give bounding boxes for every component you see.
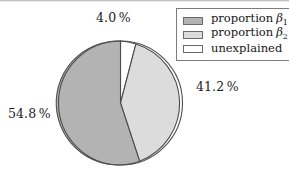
slice-label-unexplained-value: 4.0 [96, 10, 116, 25]
slice-label-unexplained-unit: % [119, 10, 131, 25]
chart-legend: proportionβ1 proportionβ2 unexplained [176, 8, 289, 61]
slice-label-beta1-value: 54.8 [8, 106, 36, 121]
legend-label-beta2-symbol: β [276, 25, 283, 39]
legend-label-beta1-text: proportion [211, 11, 273, 25]
legend-swatch-beta2 [183, 31, 203, 39]
slice-label-beta1-unit: % [39, 106, 51, 121]
pie-chart-figure: 4.0% 41.2% 54.8% proportionβ1 proportion… [0, 0, 289, 171]
legend-label-beta1-symbol: β [276, 11, 283, 25]
legend-item-unexplained[interactable]: unexplained [183, 42, 289, 55]
legend-item-beta2[interactable]: proportionβ2 [183, 28, 289, 41]
legend-label-beta2-text: proportion [211, 25, 273, 39]
slice-label-beta2: 41.2% [196, 79, 239, 94]
legend-swatch-unexplained [183, 45, 203, 53]
slice-label-beta1: 54.8% [8, 106, 51, 121]
legend-label-unexplained: unexplained [211, 42, 282, 55]
slice-label-beta2-value: 41.2 [196, 79, 224, 94]
slice-label-beta2-unit: % [227, 79, 239, 94]
slice-label-unexplained: 4.0% [96, 10, 131, 25]
legend-label-beta2-subscript: 2 [283, 32, 288, 41]
legend-swatch-beta1 [183, 17, 203, 25]
